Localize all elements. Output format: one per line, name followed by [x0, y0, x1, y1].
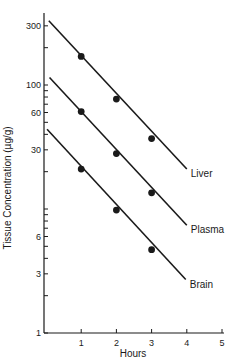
y-tick-label: 60	[31, 108, 41, 118]
data-point-marker	[113, 207, 120, 214]
x-tick-label: 1	[79, 338, 84, 348]
y-axis: 1363060100300	[26, 13, 48, 338]
x-axis-title: Hours	[120, 348, 147, 359]
series-plasma: Plasma	[50, 77, 225, 235]
x-tick-label: 4	[184, 338, 189, 348]
series-layer: LiverPlasmaBrain	[47, 21, 225, 290]
data-point-marker	[113, 96, 120, 103]
data-point-marker	[148, 135, 155, 142]
y-axis-title: Tissue Concentration (µg/g)	[2, 126, 13, 249]
series-label: Liver	[191, 168, 213, 179]
series-liver: Liver	[49, 21, 213, 179]
x-tick-label: 3	[149, 338, 154, 348]
data-point-marker	[78, 108, 85, 115]
x-axis: 12345	[44, 329, 225, 348]
series-label: Plasma	[191, 224, 225, 235]
y-tick-label: 1	[36, 328, 41, 338]
semilog-line-chart: 1363060100300 12345 LiverPlasmaBrain Hou…	[0, 0, 239, 360]
x-tick-label: 2	[114, 338, 119, 348]
series-label: Brain	[190, 279, 213, 290]
data-point-marker	[148, 189, 155, 196]
data-point-marker	[78, 166, 85, 173]
y-tick-label: 100	[26, 80, 41, 90]
series-brain: Brain	[47, 129, 213, 289]
series-line	[49, 21, 187, 169]
y-tick-label: 300	[26, 21, 41, 31]
data-point-marker	[148, 246, 155, 253]
data-point-marker	[113, 150, 120, 157]
x-tick-label: 5	[219, 338, 224, 348]
y-tick-label: 3	[36, 269, 41, 279]
data-point-marker	[78, 53, 85, 60]
y-tick-label: 30	[31, 145, 41, 155]
y-tick-label: 6	[36, 232, 41, 242]
